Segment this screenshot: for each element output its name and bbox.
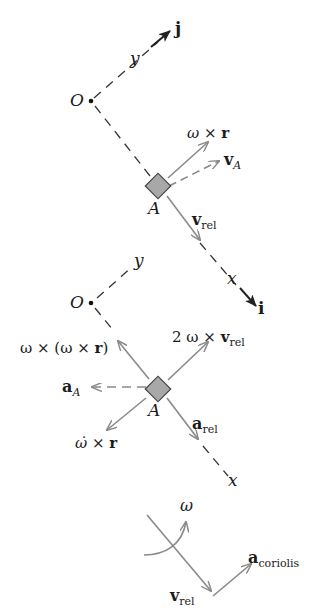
origin-dot-top <box>89 99 94 104</box>
omega-dot-cross-text: ω̇ × <box>75 434 109 452</box>
coriolis-term-label: 2 ω × vrel <box>172 330 245 345</box>
origin-dot-mid <box>89 301 94 306</box>
omega-rotation-arrow <box>144 522 186 555</box>
coriolis-term-vector <box>168 342 208 380</box>
v-text: v <box>170 586 179 605</box>
coriolis-panel <box>144 515 251 596</box>
unit-j-label: j <box>175 20 181 37</box>
omega-cross-r-vector <box>168 142 208 178</box>
r-bold-text: r <box>221 124 229 142</box>
y-axis-top <box>94 42 158 98</box>
y-axis-mid <box>97 267 132 298</box>
r-bold-text: r <box>109 434 117 452</box>
x-axis-label-top: x <box>227 270 237 287</box>
x-axis-mid-lower <box>203 446 228 476</box>
omega-cross-text: ω × <box>187 124 221 142</box>
y-axis-label-top: y <box>130 50 140 67</box>
v-A-label: vA <box>224 152 241 168</box>
A-subscript: A <box>233 159 241 172</box>
rel-subscript: rel <box>179 595 194 608</box>
a-text: a <box>192 414 202 433</box>
rel-subscript: rel <box>229 336 244 349</box>
centripetal-label: ω × (ω × r) <box>20 341 108 356</box>
x-axis-mid-upper <box>95 308 113 330</box>
omega-cross-r-label: ω × r <box>187 126 229 141</box>
A-subscript: A <box>72 386 80 399</box>
a-text: a <box>248 548 258 567</box>
v-text: v <box>224 150 233 169</box>
rel-subscript: rel <box>201 219 216 232</box>
centripetal-vector <box>118 341 149 379</box>
angular-accel-vector <box>107 398 146 430</box>
v-rel-label-top: vrel <box>192 212 217 228</box>
close-paren-text: ) <box>102 339 108 357</box>
v-text: v <box>192 210 201 229</box>
origin-label-mid: O <box>70 294 84 311</box>
y-axis-label-mid: y <box>134 252 144 269</box>
x-axis-label-mid: x <box>228 472 238 489</box>
angular-accel-label: ω̇ × r <box>75 436 117 451</box>
rel-subscript: rel <box>202 423 217 436</box>
block-A-mid <box>145 376 170 401</box>
unit-i-label: i <box>258 300 264 317</box>
block-A-top <box>145 173 170 198</box>
point-A-label-top: A <box>148 200 160 217</box>
origin-label-top: O <box>70 92 84 109</box>
two-omega-cross-text: 2 ω × <box>172 328 221 346</box>
unit-i-arrow <box>240 288 256 306</box>
x-axis-top-upper <box>95 106 150 176</box>
a-rel-label: arel <box>192 416 218 432</box>
coriolis-subscript: coriolis <box>258 557 299 570</box>
a-coriolis-vector <box>213 564 251 596</box>
diagram-canvas <box>0 0 312 610</box>
v-A-vector <box>169 161 219 186</box>
a-coriolis-label: acoriolis <box>248 550 299 566</box>
point-A-label-mid: A <box>148 402 160 419</box>
a-text: a <box>62 377 72 396</box>
unit-j-arrow <box>151 31 170 47</box>
omega-cross-omega-text: ω × (ω × <box>20 339 95 357</box>
v-rel-label-bottom: vrel <box>170 588 195 604</box>
omega-label: ω <box>180 498 193 514</box>
a-A-label: aA <box>62 379 80 395</box>
